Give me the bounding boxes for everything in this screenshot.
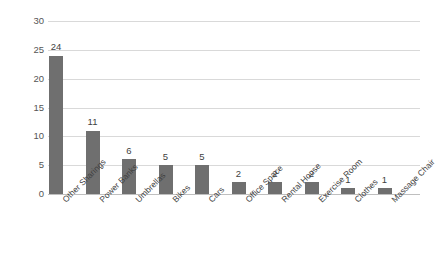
bar-value-label: 5 xyxy=(163,152,168,162)
bar-value-label: 1 xyxy=(382,175,387,185)
bar-slot: 5 xyxy=(147,21,184,194)
bar-value-label: 5 xyxy=(199,152,204,162)
bar-slot: 5 xyxy=(184,21,221,194)
bar[interactable] xyxy=(378,188,392,194)
bar[interactable] xyxy=(305,182,319,194)
bar-chart: 302520151050 241165522211 Other Sharings… xyxy=(0,0,437,273)
bar[interactable] xyxy=(49,56,63,194)
bar-value-label: 24 xyxy=(51,42,62,52)
bar[interactable] xyxy=(195,165,209,194)
plot-area: 241165522211 xyxy=(48,21,420,194)
bar-slot: 24 xyxy=(38,21,75,194)
bar-value-label: 11 xyxy=(88,117,98,127)
bar-slot: 1 xyxy=(366,21,403,194)
bar-value-label: 2 xyxy=(236,169,241,179)
bar[interactable] xyxy=(341,188,355,194)
bar-value-label: 6 xyxy=(126,146,131,156)
bar-slot: 2 xyxy=(220,21,257,194)
bar[interactable] xyxy=(232,182,246,194)
